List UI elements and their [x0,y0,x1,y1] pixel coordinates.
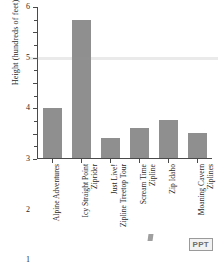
y-tick-major [33,159,37,160]
x-tick-mark [197,159,198,163]
y-tick-label: 5 [26,54,30,62]
x-axis-label: Moaning CavernZiplines [198,164,215,215]
bar [72,20,91,158]
x-axis-label-line2: Ziplines [206,164,215,215]
y-tick-minor [34,96,37,97]
y-axis-title: Height (hundreds of feet) [11,0,20,103]
x-axis-ticks [38,159,212,163]
plot-area: 123456 [37,7,212,159]
bar-slot [154,7,183,158]
x-axis-label: Alpine Adventures [53,164,62,221]
y-tick-major: 6 [33,7,37,8]
bar-series [38,7,212,158]
x-tick-mark [139,159,140,163]
x-label-slot: Icy Straight PointZiprider [67,164,96,252]
x-axis-label: Zip Idaho [169,164,178,194]
y-tick-label: 2 [26,206,30,214]
bar-slot [67,7,96,158]
x-axis-label-line1: Scream Time [139,164,148,204]
x-tick-slot [125,159,154,163]
y-tick-label: 3 [26,155,30,163]
scan-smudge [148,234,154,241]
x-axis-category-labels: Alpine AdventuresIcy Straight PointZipri… [38,164,212,252]
x-tick-mark [110,159,111,163]
x-tick-slot [154,159,183,163]
y-tick-minor [34,121,37,122]
y-tick-major: 2 [33,108,37,109]
bar [101,138,120,158]
y-tick-major: 3 [33,83,37,84]
x-axis-label-line1: Alpine Adventures [52,164,61,221]
bar-slot [96,7,125,158]
x-axis-label-line1: Just Live! [110,164,119,194]
bar [130,128,149,158]
x-tick-mark [81,159,82,163]
y-tick-minor [34,45,37,46]
x-label-slot: Just Live!Zipline Treetop Tour [96,164,125,252]
bar [159,120,178,158]
bar [188,133,207,158]
y-tick-minor [34,20,37,21]
bar [43,108,62,158]
y-tick-label: 6 [26,3,30,11]
bar-chart-figure: Height (hundreds of feet) 123456 Alpine … [0,0,218,263]
x-tick-slot [183,159,212,163]
y-tick-major: 4 [33,58,37,59]
y-tick-label: 4 [26,104,30,112]
x-label-slot: Zip Idaho [154,164,183,252]
x-axis-label-line1: Moaning Cavern [197,164,206,215]
bar-slot [125,7,154,158]
x-tick-slot [67,159,96,163]
x-label-slot: Alpine Adventures [38,164,67,252]
x-axis-label-line1: Zip Idaho [168,164,177,194]
y-tick-label: 1 [26,256,30,263]
y-tick-minor [34,146,37,147]
x-tick-mark [168,159,169,163]
ppt-watermark: PPT [189,238,213,251]
y-tick-major: 5 [33,32,37,33]
bar-slot [183,7,212,158]
y-tick-minor [34,70,37,71]
y-tick-major: 1 [33,134,37,135]
bar-slot [38,7,67,158]
x-tick-slot [96,159,125,163]
x-tick-mark [52,159,53,163]
x-axis-label-line1: Icy Straight Point [81,164,90,218]
x-tick-slot [38,159,67,163]
